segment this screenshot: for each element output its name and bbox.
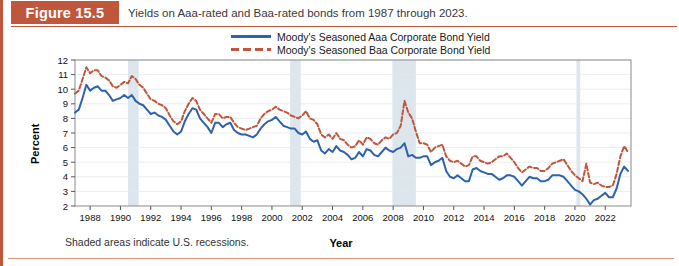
series-line-baa xyxy=(75,67,628,187)
x-tick-label: 2006 xyxy=(352,212,373,223)
y-tick-label: 6 xyxy=(63,142,68,153)
x-tick-label: 1990 xyxy=(110,212,131,223)
legend-swatch-baa-icon xyxy=(231,44,271,55)
y-tick-label: 11 xyxy=(58,69,68,80)
legend-swatch-aaa-icon xyxy=(231,31,271,42)
figure-caption: Yields on Aaa-rated and Baa-rated bonds … xyxy=(128,1,468,24)
y-tick-label: 3 xyxy=(63,186,68,197)
chart-legend: Moody's Seasoned Aaa Corporate Bond Yiel… xyxy=(231,31,490,57)
x-tick-label: 1988 xyxy=(80,212,101,223)
y-tick-label: 2 xyxy=(63,201,68,212)
line-chart: 2345678910111219881990199219941996199820… xyxy=(3,56,679,236)
x-tick-label: 2020 xyxy=(564,212,585,223)
x-tick-label: 1994 xyxy=(170,212,191,223)
x-tick-label: 2004 xyxy=(322,212,343,223)
x-tick-label: 1998 xyxy=(231,212,252,223)
figure-header: Figure 15.5 Yields on Aaa-rated and Baa-… xyxy=(6,0,679,26)
y-tick-label: 7 xyxy=(63,128,68,139)
x-tick-label: 2002 xyxy=(292,212,313,223)
y-tick-label: 8 xyxy=(63,113,68,124)
plot-area-wrapper: Percent 23456789101112198819901992199419… xyxy=(3,56,679,256)
x-tick-label: 1996 xyxy=(201,212,222,223)
x-tick-label: 2014 xyxy=(473,212,494,223)
y-tick-label: 12 xyxy=(57,56,68,66)
x-tick-label: 2012 xyxy=(443,212,464,223)
footer-divider xyxy=(8,258,674,259)
legend-label-aaa: Moody's Seasoned Aaa Corporate Bond Yiel… xyxy=(277,31,490,43)
y-axis-label: Percent xyxy=(29,124,41,164)
x-tick-label: 2010 xyxy=(413,212,434,223)
x-tick-label: 2016 xyxy=(504,212,525,223)
x-tick-label: 2008 xyxy=(383,212,404,223)
y-tick-label: 4 xyxy=(63,171,68,182)
x-tick-label: 2022 xyxy=(595,212,616,223)
header-divider xyxy=(11,26,677,27)
figure-note: Shaded areas indicate U.S. recessions. xyxy=(65,236,249,248)
legend-item-baa: Moody's Seasoned Baa Corporate Bond Yiel… xyxy=(231,44,490,55)
x-tick-label: 1992 xyxy=(140,212,161,223)
y-tick-label: 5 xyxy=(63,157,68,168)
x-tick-label: 2000 xyxy=(261,212,282,223)
legend-label-baa: Moody's Seasoned Baa Corporate Bond Yiel… xyxy=(277,44,490,56)
legend-item-aaa: Moody's Seasoned Aaa Corporate Bond Yiel… xyxy=(231,31,490,42)
y-tick-label: 10 xyxy=(57,84,68,95)
y-tick-label: 9 xyxy=(63,98,68,109)
series-line-aaa xyxy=(75,85,628,205)
x-tick-label: 2018 xyxy=(534,212,555,223)
figure-number-badge: Figure 15.5 xyxy=(11,1,119,24)
